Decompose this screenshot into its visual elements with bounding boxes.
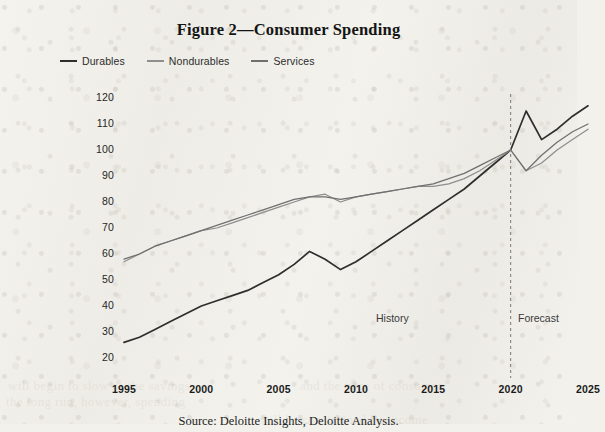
x-tick-label: 2015 [413, 383, 453, 395]
history-label: History [376, 312, 409, 324]
y-tick-label: 120 [80, 91, 114, 103]
forecast-label: Forecast [518, 312, 559, 324]
y-tick-label: 30 [80, 325, 114, 337]
y-tick-label: 70 [80, 221, 114, 233]
series-line-durables [124, 106, 588, 343]
x-tick-label: 2005 [259, 383, 299, 395]
y-tick-label: 60 [80, 247, 114, 259]
x-tick-label: 2010 [336, 383, 376, 395]
consumer-spending-chart: Figure 2—Consumer Spending Durables Nond… [40, 16, 537, 408]
plot-area [40, 16, 605, 432]
series-line-nondurables [124, 129, 588, 262]
series-line-services [124, 124, 588, 259]
y-tick-label: 110 [80, 117, 114, 129]
y-tick-label: 100 [80, 143, 114, 155]
y-tick-label: 50 [80, 273, 114, 285]
y-tick-label: 40 [80, 299, 114, 311]
x-tick-label: 2025 [568, 383, 605, 395]
y-tick-label: 80 [80, 195, 114, 207]
x-tick-label: 2000 [181, 383, 221, 395]
y-tick-label: 20 [80, 351, 114, 363]
source-caption: Source: Deloitte Insights, Deloitte Anal… [40, 414, 537, 429]
y-tick-label: 90 [80, 169, 114, 181]
x-tick-label: 2020 [491, 383, 531, 395]
x-tick-label: 1995 [104, 383, 144, 395]
